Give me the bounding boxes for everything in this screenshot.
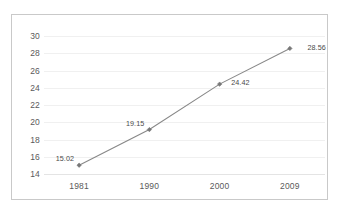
data-point-label: 15.02 — [56, 154, 75, 163]
data-point-marker — [77, 163, 81, 167]
line-series-layer — [0, 0, 343, 214]
data-point-marker — [288, 46, 292, 50]
series-line — [79, 48, 290, 165]
chart-plot-wrapper: 141618202224262830 1981199020002009 15.0… — [0, 0, 343, 214]
data-point-label: 28.56 — [307, 43, 326, 52]
data-point-label: 24.42 — [231, 78, 250, 87]
data-point-label: 19.15 — [126, 118, 145, 127]
